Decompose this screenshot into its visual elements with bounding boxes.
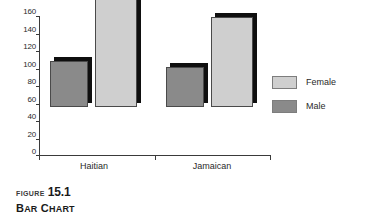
legend-swatch-male — [272, 100, 297, 113]
legend-label-female: Female — [306, 77, 336, 88]
caption-title-b: B — [16, 202, 24, 214]
caption-title-c2: C — [41, 202, 49, 214]
caption-title-ar: AR — [24, 204, 37, 214]
bar-face — [211, 17, 253, 107]
bar-face — [95, 0, 137, 107]
legend-swatch-female — [272, 76, 297, 89]
x-category-label-jamaican: Jamaican — [175, 161, 249, 171]
bar-haitian-female[interactable] — [95, 0, 137, 107]
figure-number: 15.1 — [48, 185, 71, 199]
figure-container: 160 140 120 100 80 60 40 20 0 — [0, 0, 377, 223]
bar-jamaican-female[interactable] — [211, 17, 253, 107]
bar-face — [50, 61, 88, 107]
bar-haitian-male[interactable] — [50, 61, 88, 107]
figure-caption-line-1: FIGURE15.1 — [16, 186, 356, 200]
bar-face — [166, 67, 204, 107]
figure-word: FIGURE — [16, 190, 45, 197]
figure-caption-title: BAR CHART — [16, 202, 356, 214]
caption-title-hart: HART — [49, 204, 75, 214]
bar-jamaican-male[interactable] — [166, 67, 204, 107]
figure-caption: FIGURE15.1 BAR CHART — [16, 186, 356, 214]
x-category-label-haitian: Haitian — [63, 161, 125, 171]
legend-label-male: Male — [306, 101, 326, 112]
